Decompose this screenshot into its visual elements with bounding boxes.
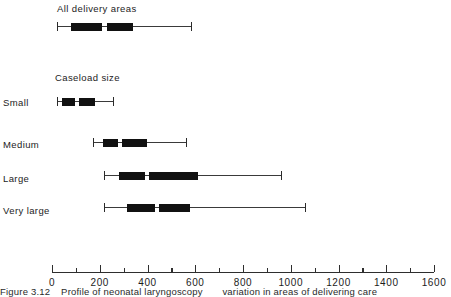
caption-text-part-2: variation in areas of delivering care: [222, 286, 377, 297]
group-header-caseload-size: Caseload size: [55, 73, 120, 83]
box-lower-quartile: [127, 204, 155, 212]
axis-tick-minor: [171, 268, 172, 272]
boxplot-row-large: [0, 169, 442, 183]
axis-tick-minor: [410, 268, 411, 272]
whisker-cap-high: [191, 22, 192, 31]
whisker-cap-high: [281, 171, 282, 180]
box-upper-quartile: [122, 139, 147, 147]
axis-tick-major: [100, 265, 101, 272]
figure-caption: Figure 3.12 Profile of neonatal laryngos…: [0, 286, 442, 297]
box-lower-quartile: [119, 172, 145, 180]
axis-tick-minor: [124, 268, 125, 272]
axis-tick-minor: [76, 268, 77, 272]
caption-text-part-1: Profile of neonatal laryngoscopy: [61, 286, 203, 297]
axis-tick-major: [339, 265, 340, 272]
whisker-cap-high: [305, 203, 306, 212]
axis-tick-major: [434, 265, 435, 272]
boxplot-row-all-delivery-areas: [0, 20, 442, 34]
box-lower-quartile: [103, 139, 119, 147]
box-upper-quartile: [149, 172, 198, 180]
whisker-cap-low: [57, 97, 58, 106]
axis-tick-major: [291, 265, 292, 272]
axis-tick-major: [195, 265, 196, 272]
boxplot-row-small: [0, 95, 442, 109]
box-lower-quartile: [71, 23, 102, 31]
box-upper-quartile: [107, 23, 133, 31]
axis-baseline: [52, 272, 434, 273]
axis-tick-minor: [219, 268, 220, 272]
whisker-cap-low: [104, 203, 105, 212]
axis-tick-minor: [267, 268, 268, 272]
whisker-cap-low: [57, 22, 58, 31]
axis-tick-major: [243, 265, 244, 272]
axis-tick-minor: [315, 268, 316, 272]
whisker-cap-low: [104, 171, 105, 180]
axis-tick-minor: [362, 268, 363, 272]
axis-tick-major: [52, 265, 53, 272]
boxplot-row-very-large: [0, 201, 442, 215]
boxplot-row-medium: [0, 136, 442, 150]
group-header-all-delivery-areas: All delivery areas: [57, 4, 137, 14]
caption-number: Figure 3.12: [0, 286, 50, 297]
box-upper-quartile: [159, 204, 190, 212]
axis-tick-major: [386, 265, 387, 272]
whisker-cap-high: [186, 138, 187, 147]
whisker-cap-high: [113, 97, 114, 106]
box-lower-quartile: [62, 98, 75, 106]
axis-tick-major: [148, 265, 149, 272]
box-upper-quartile: [79, 98, 94, 106]
whisker-cap-low: [93, 138, 94, 147]
